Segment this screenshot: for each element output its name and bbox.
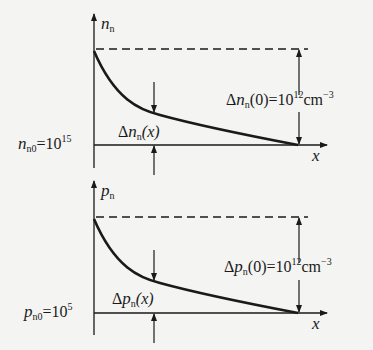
argument: (x) — [142, 123, 160, 140]
argument: (0)=10 — [248, 258, 292, 275]
excess-at-zero-label: Δpn(0)=1012cm−3 — [224, 256, 332, 277]
equilibrium-label-pn0: pn0=105 — [24, 301, 73, 322]
subscript: n0 — [33, 311, 43, 322]
subscript: n0 — [27, 143, 37, 154]
symbol: n — [18, 134, 27, 153]
x-axis-label: x — [312, 314, 320, 334]
x-symbol: x — [312, 314, 320, 333]
exponent: 12 — [291, 256, 301, 267]
excess-x-label: Δnn(x) — [118, 122, 160, 142]
exponent: 5 — [68, 301, 73, 312]
excess-x-label: Δpn(x) — [112, 289, 154, 309]
x-symbol: x — [312, 146, 320, 165]
symbol: p — [101, 181, 110, 200]
symbol: n — [236, 90, 245, 109]
excess-at-zero-label: Δnn(0)=1012cm−3 — [226, 89, 334, 110]
equilibrium-label-nn0: nn0=1015 — [18, 133, 72, 154]
symbol: n — [128, 122, 137, 141]
x-axis-label: x — [312, 146, 320, 166]
subscript: n — [110, 23, 115, 34]
delta: Δ — [224, 258, 234, 275]
delta: Δ — [112, 290, 122, 307]
symbol: p — [24, 302, 33, 321]
exponent: 12 — [293, 89, 303, 100]
argument: (0)=10 — [250, 91, 294, 108]
delta: Δ — [226, 91, 236, 108]
delta: Δ — [118, 123, 128, 140]
y-axis-label-nn: nn — [101, 14, 115, 34]
symbol: p — [234, 257, 243, 276]
unit-exponent: −3 — [323, 89, 334, 100]
unit-exponent: −3 — [321, 256, 332, 267]
equals-value: =10 — [37, 135, 62, 152]
exponent: 15 — [62, 133, 72, 144]
equals-value: =10 — [43, 303, 68, 320]
argument: (x) — [136, 290, 154, 307]
unit: cm — [301, 258, 321, 275]
unit: cm — [303, 91, 323, 108]
y-axis-label-pn: pn — [101, 181, 115, 201]
symbol: n — [101, 14, 110, 33]
diagram-canvas — [0, 0, 373, 350]
subscript: n — [110, 190, 115, 201]
symbol: p — [122, 289, 131, 308]
